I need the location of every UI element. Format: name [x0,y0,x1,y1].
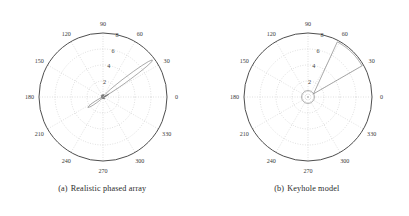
panel-keyhole-model: 03060901201501802102402703003302468 (b)K… [205,0,409,216]
panel-realistic-phased-array: 03060901201501802102402703003302468 (a)R… [0,0,205,216]
polar-angle-tick-label: 150 [240,58,249,64]
polar-grid-spoke [103,97,158,129]
polar-angle-tick-label: 150 [35,58,44,64]
polar-radius-tick-label: 8 [320,32,323,38]
polar-angle-tick-label: 90 [305,21,311,27]
figure-polar-antenna-patterns: 03060901201501802102402703003302468 (a)R… [0,0,409,216]
polar-grid-spoke [48,65,103,97]
polar-angle-tick-label: 0 [380,94,383,100]
polar-grid-spoke [308,97,363,129]
polar-angle-tick-label: 0 [175,94,178,100]
polar-grid-spoke [71,42,103,97]
polar-grid-spoke [252,97,307,129]
polar-angle-tick-label: 30 [164,58,170,64]
polar-angle-tick-label: 300 [340,158,349,164]
polar-grid-spoke [276,42,308,97]
polar-grid-spoke [276,97,308,152]
polar-angle-tick-label: 330 [162,131,171,137]
polar-radius-tick-label: 2 [308,79,311,85]
polar-angle-tick-label: 240 [62,158,71,164]
polar-grid-spoke [252,65,307,97]
polar-angle-tick-label: 120 [62,31,71,37]
polar-plot-keyhole-model: 03060901201501802102402703003302468 [205,0,409,186]
polar-angle-tick-label: 90 [100,21,106,27]
polar-radius-tick-label: 6 [316,48,319,54]
polar-angle-tick-label: 330 [367,131,376,137]
polar-grid-spoke [103,97,135,152]
polar-angle-tick-label: 300 [135,158,144,164]
polar-angle-tick-label: 60 [137,31,143,37]
polar-angle-tick-label: 210 [240,131,249,137]
polar-data-trace [88,60,152,108]
polar-chart-b-svg: 03060901201501802102402703003302468 [205,0,409,186]
polar-angle-tick-label: 120 [266,31,275,37]
polar-angle-tick-label: 30 [368,58,374,64]
polar-plot-realistic-phased-array: 03060901201501802102402703003302468 [0,0,204,186]
polar-angle-tick-label: 270 [99,168,108,174]
polar-angle-tick-label: 180 [230,94,239,100]
polar-radius-tick-label: 2 [103,79,106,85]
polar-radius-tick-label: 4 [108,63,111,69]
polar-radius-tick-label: 6 [112,48,115,54]
polar-angle-tick-label: 60 [341,31,347,37]
polar-radius-tick-label: 4 [312,63,315,69]
polar-angle-tick-label: 240 [266,158,275,164]
polar-angle-tick-label: 270 [303,168,312,174]
polar-grid-spoke [308,97,340,152]
polar-angle-tick-label: 210 [35,131,44,137]
polar-angle-tick-label: 180 [25,94,34,100]
polar-radius-tick-label: 8 [116,32,119,38]
polar-grid-spoke [71,97,103,152]
polar-chart-a-svg: 03060901201501802102402703003302468 [0,0,204,186]
